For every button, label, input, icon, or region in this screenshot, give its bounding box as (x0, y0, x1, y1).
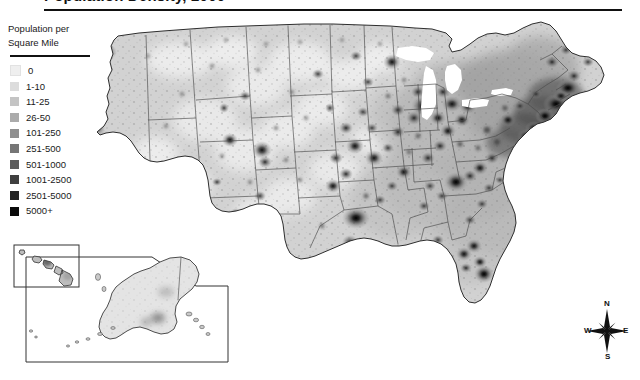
legend-entry: 11-25 (8, 94, 104, 110)
legend-entry-label: 2501-5000 (26, 191, 71, 201)
legend-entry-label: 1001-2500 (26, 175, 71, 185)
legend-entry: 1-10 (8, 79, 104, 95)
legend-entry-label: 0 (28, 66, 33, 76)
legend-entry-label: 11-25 (26, 97, 50, 107)
legend-color-swatch (10, 175, 19, 184)
legend-entry: 2501-5000 (8, 188, 104, 204)
legend-color-swatch (10, 191, 19, 200)
map-legend: Population perSquare Mile 01-1011-2526-5… (8, 22, 104, 219)
legend-entry-label: 101-250 (26, 128, 61, 138)
legend-entry: 0 (8, 63, 104, 79)
legend-entry: 26-50 (8, 110, 104, 126)
legend-heading: Population perSquare Mile (8, 22, 104, 50)
legend-color-swatch (10, 97, 19, 106)
legend-color-swatch (10, 129, 19, 138)
legend-color-swatch (10, 65, 21, 76)
hawaii-islands (14, 245, 79, 287)
compass-star-icon (584, 300, 630, 362)
legend-color-swatch (10, 113, 19, 122)
legend-entry-label: 1-10 (26, 82, 45, 92)
legend-entry-label: 5000+ (26, 206, 53, 216)
compass-rose: N S W E (584, 300, 630, 362)
legend-entry: 101-250 (8, 125, 104, 141)
legend-heading-line2: Square Mile (8, 37, 59, 48)
legend-divider (10, 55, 90, 57)
hawaii-inset (14, 245, 79, 287)
legend-entry-label: 501-1000 (26, 160, 66, 170)
legend-entry-label: 26-50 (26, 113, 50, 123)
legend-color-swatch (10, 160, 19, 169)
legend-entry-label: 251-500 (26, 144, 61, 154)
legend-color-swatch (10, 207, 19, 216)
legend-entry: 501-1000 (8, 157, 104, 173)
legend-entry: 5000+ (8, 203, 104, 219)
legend-entry: 1001-2500 (8, 172, 104, 188)
legend-color-swatch (10, 82, 19, 91)
legend-entry: 251-500 (8, 141, 104, 157)
legend-heading-line1: Population per (8, 23, 69, 34)
legend-entry-list: 01-1011-2526-50101-250251-500501-1000100… (8, 63, 104, 219)
legend-color-swatch (10, 144, 19, 153)
